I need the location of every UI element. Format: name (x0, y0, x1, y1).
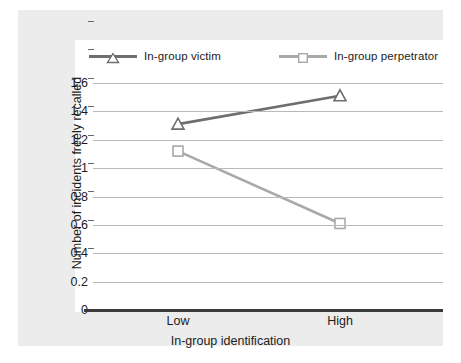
legend-item-in-group-victim: In-group victim (89, 50, 221, 62)
y-tick-mark (88, 21, 94, 22)
y-tick-label: 0.4 (71, 246, 88, 260)
chart-figure: In-group victim In-group perpetrator (0, 0, 461, 363)
gridline (93, 83, 443, 84)
y-tick-label: 1.4 (71, 104, 88, 118)
y-tick-mark (88, 191, 94, 192)
triangle-marker-icon (89, 50, 137, 62)
y-tick-mark (88, 49, 94, 50)
y-tick-mark (88, 248, 94, 249)
gridline (93, 168, 443, 169)
gridline (93, 140, 443, 141)
y-tick-label: 1.2 (71, 133, 88, 147)
series-layer (93, 72, 443, 312)
square-marker-icon (173, 146, 183, 156)
y-tick-label: 0.6 (71, 218, 88, 232)
x-axis-title: In-group identification (18, 334, 443, 348)
y-tick-label: 1 (81, 161, 88, 175)
y-tick-mark (88, 106, 94, 107)
y-tick-label: 0.2 (71, 275, 88, 289)
legend-item-in-group-perpetrator: In-group perpetrator (279, 50, 438, 62)
y-tick-mark (88, 163, 94, 164)
series-line (178, 96, 340, 124)
legend-label-in-group-perpetrator: In-group perpetrator (334, 50, 438, 62)
gridline (93, 197, 443, 198)
square-marker-icon (279, 50, 327, 62)
plot-area (93, 72, 443, 312)
x-tick-label: High (327, 314, 353, 328)
figure-panel: In-group victim In-group perpetrator (18, 10, 443, 346)
square-marker-icon (335, 218, 345, 228)
x-axis-line (84, 309, 443, 312)
gridline (93, 111, 443, 112)
y-tick-mark (88, 78, 94, 79)
x-tick-label: Low (167, 314, 190, 328)
y-axis-tick-labels: 00.20.40.60.811.21.41.6 (36, 72, 88, 312)
legend-label-in-group-victim: In-group victim (144, 50, 221, 62)
y-tick-mark (88, 135, 94, 136)
gridline (93, 282, 443, 283)
y-tick-mark (88, 220, 94, 221)
gridline (93, 225, 443, 226)
gridline (93, 253, 443, 254)
series-line (178, 151, 340, 223)
y-tick-label: 0.8 (71, 190, 88, 204)
chart-legend: In-group victim In-group perpetrator (75, 40, 443, 72)
y-tick-label: 1.6 (71, 76, 88, 90)
